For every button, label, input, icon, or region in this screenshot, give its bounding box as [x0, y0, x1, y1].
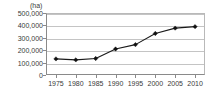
y-axis-tick-mark [43, 38, 46, 39]
y-axis-tick-label: 100,000 [0, 59, 43, 66]
y-axis-tick-mark [43, 13, 46, 14]
x-axis-tick-label: 1975 [48, 80, 64, 88]
x-axis-tick-label: 1985 [88, 80, 104, 88]
x-axis-tick-mark [96, 75, 97, 78]
x-axis-tick-mark [155, 75, 156, 78]
line-chart: (ha) 500,000400,000300,000200,000100,000… [0, 0, 213, 99]
y-axis-tick-mark [43, 63, 46, 64]
gridline [47, 51, 204, 52]
y-axis-tick-label: 500,000 [0, 10, 43, 17]
x-axis-tick-mark [175, 75, 176, 78]
x-axis-tick-mark [195, 75, 196, 78]
x-axis-tick-label: 2005 [167, 80, 183, 88]
x-axis-tick-mark [116, 75, 117, 78]
plot-area [46, 13, 205, 75]
y-axis-tick-label: 400,000 [0, 22, 43, 29]
y-axis-tick-mark [43, 50, 46, 51]
gridline [47, 64, 204, 65]
y-axis-tick-mark [43, 25, 46, 26]
x-axis-tick-label: 1980 [68, 80, 84, 88]
x-axis-tick-mark [76, 75, 77, 78]
y-axis-tick-mark [43, 75, 46, 76]
y-axis-tick-label: 0 [0, 72, 43, 79]
x-axis-tick-label: 2010 [187, 80, 203, 88]
x-axis-tick-label: 2000 [148, 80, 164, 88]
y-axis-tick-label: 300,000 [0, 34, 43, 41]
x-axis-tick-mark [135, 75, 136, 78]
gridline [47, 26, 204, 27]
gridline [47, 14, 204, 15]
y-axis-tick-label: 200,000 [0, 47, 43, 54]
x-axis-tick-mark [56, 75, 57, 78]
gridline [47, 39, 204, 40]
x-axis-tick-label: 1995 [128, 80, 144, 88]
x-axis-tick-label: 1990 [108, 80, 124, 88]
